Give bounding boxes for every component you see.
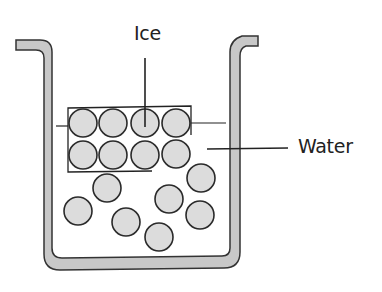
water-particle: [93, 174, 121, 202]
ice-particles: [69, 109, 190, 169]
water-particle: [155, 185, 183, 213]
ice-particle: [131, 141, 159, 169]
water-particles: [64, 164, 215, 251]
ice-label: Ice: [134, 22, 161, 44]
water-particle: [187, 164, 215, 192]
ice-particle: [99, 109, 127, 137]
water-particle: [145, 223, 173, 251]
ice-particle: [99, 141, 127, 169]
water-pointer-line: [207, 148, 288, 149]
ice-particle: [69, 109, 97, 137]
water-particle: [112, 208, 140, 236]
ice-particle: [162, 109, 190, 137]
ice-particle: [69, 141, 97, 169]
ice-particle: [162, 140, 190, 168]
water-particle: [186, 201, 214, 229]
water-particle: [64, 197, 92, 225]
water-label: Water: [298, 135, 353, 157]
